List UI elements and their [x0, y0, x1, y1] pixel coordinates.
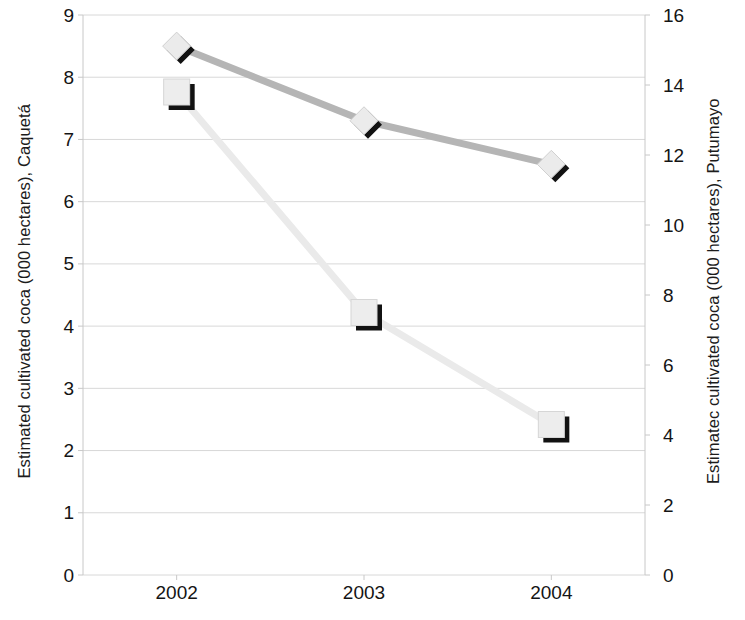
- left-tick-5: 5: [40, 254, 74, 273]
- data-point-putumayo-2004: [538, 412, 569, 443]
- right-axis-tick-labels: 1614121086420: [663, 0, 711, 620]
- data-point-putumayo-2002: [164, 79, 195, 110]
- series-lines: [177, 46, 552, 424]
- left-axis-tick-labels: 9876543210: [30, 0, 74, 620]
- left-tick-3: 3: [40, 379, 74, 398]
- x-axis-tick-labels: 200220032004: [83, 583, 645, 615]
- left-tick-4: 4: [40, 317, 74, 336]
- marker-square: [538, 412, 564, 438]
- left-tick-2: 2: [40, 441, 74, 460]
- data-point-caquetá-2003: [350, 107, 382, 139]
- series-line-putumayo: [177, 92, 552, 425]
- right-tick-8: 8: [663, 286, 703, 305]
- x-tick-2002: 2002: [132, 583, 222, 602]
- right-tick-14: 14: [663, 76, 703, 95]
- right-tick-12: 12: [663, 146, 703, 165]
- right-tick-4: 4: [663, 426, 703, 445]
- series-markers: [163, 32, 570, 442]
- right-tick-10: 10: [663, 216, 703, 235]
- right-tick-2: 2: [663, 496, 703, 515]
- plot-svg: [83, 15, 645, 575]
- left-tick-6: 6: [40, 192, 74, 211]
- left-tick-8: 8: [40, 68, 74, 87]
- left-tick-9: 9: [40, 6, 74, 25]
- marker-square: [164, 79, 190, 105]
- right-tick-16: 16: [663, 6, 703, 25]
- left-tick-0: 0: [40, 566, 74, 585]
- marker-square: [351, 300, 377, 326]
- right-tick-6: 6: [663, 356, 703, 375]
- left-tick-1: 1: [40, 503, 74, 522]
- x-tick-2003: 2003: [319, 583, 409, 602]
- series-line-caquetá: [177, 46, 552, 164]
- data-point-putumayo-2003: [351, 300, 382, 331]
- dual-axis-line-chart: Estimated cultivated coca (000 hectares)…: [0, 0, 745, 620]
- data-point-caquetá-2002: [163, 32, 195, 64]
- plot-area: [83, 15, 645, 575]
- right-tick-0: 0: [663, 566, 703, 585]
- left-tick-7: 7: [40, 130, 74, 149]
- data-point-caquetá-2004: [537, 150, 569, 182]
- x-tick-2004: 2004: [506, 583, 596, 602]
